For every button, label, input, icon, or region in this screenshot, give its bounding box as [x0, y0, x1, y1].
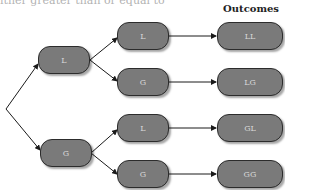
node-level2-l-top: L: [117, 22, 169, 50]
outcome-gl: GL: [217, 114, 283, 142]
outcome-lg: LG: [217, 68, 283, 96]
node-label: L: [61, 56, 66, 65]
outcome-ll: LL: [217, 22, 283, 50]
outcome-label: GL: [244, 124, 256, 133]
node-level2-l-bottom: L: [117, 114, 169, 142]
node-label: G: [63, 149, 69, 158]
outcome-label: LL: [245, 32, 256, 41]
node-level2-g-bottom: G: [117, 160, 169, 188]
outcome-label: LG: [244, 78, 256, 87]
outcome-gg: GG: [217, 160, 283, 188]
node-label: L: [140, 124, 145, 133]
outcome-label: GG: [244, 170, 257, 179]
node-level1-g: G: [40, 139, 92, 167]
node-level2-g-top: G: [117, 68, 169, 96]
node-label: G: [140, 170, 146, 179]
node-label: G: [140, 78, 146, 87]
node-level1-l: L: [38, 46, 90, 74]
node-label: L: [140, 32, 145, 41]
